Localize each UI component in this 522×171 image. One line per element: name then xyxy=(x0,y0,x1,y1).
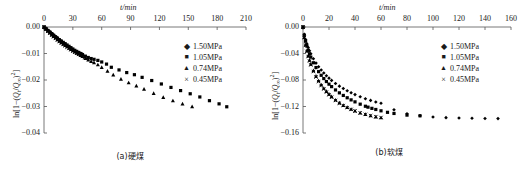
x-tick-label: 150 xyxy=(176,14,200,23)
legend-item-label: 1.05MPa xyxy=(193,54,222,62)
y-tick-label: −0.03 xyxy=(10,102,40,111)
panel-caption-a: (a)硬煤 xyxy=(80,150,180,161)
y-tick-label: −0.02 xyxy=(10,75,40,84)
x-tick-label: 40 xyxy=(343,14,367,23)
panel-soft-coal: t/min ln[1−(Qt/Q∞)2] ◆ 1.50MPa ■ 1.05MPa… xyxy=(261,0,522,171)
legend-item-label: 1.50MPa xyxy=(450,43,479,51)
x-tick-label: 120 xyxy=(447,14,471,23)
y-tick-label: −0.08 xyxy=(269,75,299,84)
x-tick-label: 60 xyxy=(369,14,393,23)
legend-item-label: 1.50MPa xyxy=(193,43,222,51)
figure-container: t/min ln[1−(Qt/Q∞)2] ◆ 1.50MPa ■ 1.05MPa… xyxy=(0,0,522,171)
panel-hard-coal: t/min ln[1−(Qt/Q∞)2] ◆ 1.50MPa ■ 1.05MPa… xyxy=(0,0,261,171)
legend-item: ▲ 0.74MPa xyxy=(439,63,479,74)
x-tick-label: 210 xyxy=(234,14,258,23)
legend-a: ◆ 1.50MPa ■ 1.05MPa ▲ 0.74MPa × 0.45MPa xyxy=(182,41,222,85)
legend-item: ■ 1.05MPa xyxy=(439,52,479,63)
diamond-marker-icon: ◆ xyxy=(182,43,191,51)
y-tick-label: 0.00 xyxy=(269,22,299,31)
x-tick-label: 60 xyxy=(90,14,114,23)
x-tick-label: 20 xyxy=(317,14,341,23)
y-tick-label: 0.00 xyxy=(10,22,40,31)
x-tick-label: 180 xyxy=(205,14,229,23)
panel-caption-b: (b)软煤 xyxy=(339,146,439,157)
square-marker-icon: ■ xyxy=(182,54,191,61)
legend-item-label: 0.45MPa xyxy=(450,76,479,84)
y-tick-label: −0.01 xyxy=(10,49,40,58)
legend-b: ◆ 1.50MPa ■ 1.05MPa ▲ 0.74MPa × 0.45MPa xyxy=(439,41,479,85)
x-tick-label: 120 xyxy=(147,14,171,23)
x-tick-label: 30 xyxy=(61,14,85,23)
legend-item-label: 0.45MPa xyxy=(193,76,222,84)
y-tick-label: −0.12 xyxy=(269,102,299,111)
legend-item: × 0.45MPa xyxy=(182,74,222,85)
legend-item: × 0.45MPa xyxy=(439,74,479,85)
legend-item-label: 1.05MPa xyxy=(450,54,479,62)
x-tick-label: 160 xyxy=(499,14,522,23)
x-tick-label: 80 xyxy=(395,14,419,23)
legend-item: ◆ 1.50MPa xyxy=(439,41,479,52)
legend-item: ◆ 1.50MPa xyxy=(182,41,222,52)
triangle-marker-icon: ▲ xyxy=(439,65,448,72)
legend-item-label: 0.74MPa xyxy=(450,65,479,73)
x-tick-label: 90 xyxy=(119,14,143,23)
cross-marker-icon: × xyxy=(439,76,448,84)
legend-item: ▲ 0.74MPa xyxy=(182,63,222,74)
x-tick-label: 100 xyxy=(421,14,445,23)
square-marker-icon: ■ xyxy=(439,54,448,61)
diamond-marker-icon: ◆ xyxy=(439,43,448,51)
x-axis-title-a: t/min xyxy=(120,3,136,12)
y-tick-label: −0.04 xyxy=(10,128,40,137)
y-tick-label: −0.04 xyxy=(269,49,299,58)
cross-marker-icon: × xyxy=(182,76,191,84)
triangle-marker-icon: ▲ xyxy=(182,65,191,72)
y-tick-label: −0.16 xyxy=(269,128,299,137)
x-axis-title-b: t/min xyxy=(379,3,395,12)
x-tick-label: 140 xyxy=(473,14,497,23)
legend-item: ■ 1.05MPa xyxy=(182,52,222,63)
legend-item-label: 0.74MPa xyxy=(193,65,222,73)
